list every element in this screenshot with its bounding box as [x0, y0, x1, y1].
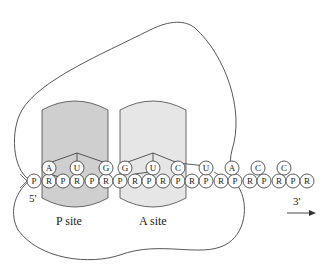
base-unit: U: [199, 161, 213, 175]
base-unit: G: [99, 161, 113, 175]
three-prime-label: 3': [293, 195, 301, 207]
svg-text:P: P: [175, 176, 180, 186]
base-unit: G: [118, 161, 132, 175]
base-unit: U: [146, 161, 160, 175]
backbone-unit: R: [243, 174, 257, 188]
svg-text:U: U: [74, 163, 81, 173]
backbone-unit: R: [42, 174, 56, 188]
svg-text:R: R: [132, 176, 138, 186]
svg-text:R: R: [304, 176, 310, 186]
svg-text:R: R: [189, 176, 195, 186]
backbone-unit: R: [156, 174, 170, 188]
svg-text:U: U: [203, 163, 210, 173]
svg-text:P: P: [60, 176, 65, 186]
svg-text:P: P: [146, 176, 151, 186]
svg-text:R: R: [218, 176, 224, 186]
base-unit: C: [251, 161, 265, 175]
base-unit: C: [171, 161, 185, 175]
svg-text:R: R: [103, 176, 109, 186]
svg-text:A: A: [229, 163, 236, 173]
svg-text:R: R: [46, 176, 52, 186]
backbone-unit: P: [85, 174, 99, 188]
backbone-unit: P: [113, 174, 127, 188]
svg-text:P: P: [232, 176, 237, 186]
backbone-unit: P: [27, 174, 41, 188]
backbone-unit: P: [257, 174, 271, 188]
backbone-unit: R: [128, 174, 142, 188]
base-unit: C: [277, 161, 291, 175]
backbone-unit: R: [300, 174, 314, 188]
svg-text:R: R: [74, 176, 80, 186]
svg-text:C: C: [255, 163, 261, 173]
a-site-label: A site: [139, 214, 167, 228]
backbone-unit: P: [171, 174, 185, 188]
svg-text:A: A: [46, 163, 53, 173]
svg-text:R: R: [276, 176, 282, 186]
p-site-label: P site: [56, 214, 82, 228]
svg-text:P: P: [117, 176, 122, 186]
backbone-unit: P: [286, 174, 300, 188]
svg-text:R: R: [160, 176, 166, 186]
base-unit: U: [70, 161, 84, 175]
base-unit: A: [42, 161, 56, 175]
svg-text:C: C: [281, 163, 287, 173]
backbone-unit: R: [272, 174, 286, 188]
backbone-unit: R: [70, 174, 84, 188]
svg-text:C: C: [175, 163, 181, 173]
svg-text:G: G: [122, 163, 129, 173]
backbone-unit: R: [99, 174, 113, 188]
svg-text:R: R: [247, 176, 253, 186]
ribosome-diagram: P R P R P R P R P R P R P R P R P R P R …: [0, 0, 326, 274]
backbone-unit: R: [214, 174, 228, 188]
svg-text:P: P: [203, 176, 208, 186]
base-unit: A: [225, 161, 239, 175]
five-prime-label: 5': [29, 192, 37, 204]
direction-arrow-icon: [287, 210, 316, 216]
svg-text:U: U: [150, 163, 157, 173]
backbone-unit: P: [142, 174, 156, 188]
svg-text:P: P: [290, 176, 295, 186]
svg-text:P: P: [89, 176, 94, 186]
backbone-unit: P: [228, 174, 242, 188]
backbone-unit: P: [56, 174, 70, 188]
svg-text:P: P: [31, 176, 36, 186]
backbone-unit: R: [185, 174, 199, 188]
svg-text:P: P: [261, 176, 266, 186]
svg-text:G: G: [103, 163, 110, 173]
backbone-unit: P: [199, 174, 213, 188]
